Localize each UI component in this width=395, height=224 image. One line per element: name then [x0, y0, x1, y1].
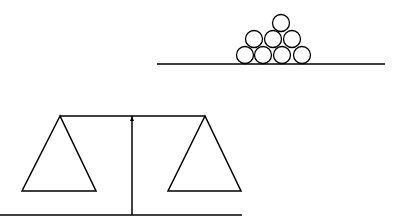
stacked-circle — [284, 31, 301, 48]
balance-scale — [0, 116, 242, 215]
stacked-circle — [246, 31, 263, 48]
stacked-circle — [265, 31, 282, 48]
left-pan-triangle — [22, 116, 96, 191]
stacked-circle — [274, 47, 291, 64]
circle-stack — [157, 15, 385, 65]
stacked-circle — [294, 47, 311, 64]
stacked-circle — [237, 47, 254, 64]
right-pan-triangle — [168, 116, 241, 191]
stacked-circle — [255, 47, 272, 64]
diagram-canvas — [0, 0, 395, 224]
stacked-circle — [273, 15, 290, 32]
